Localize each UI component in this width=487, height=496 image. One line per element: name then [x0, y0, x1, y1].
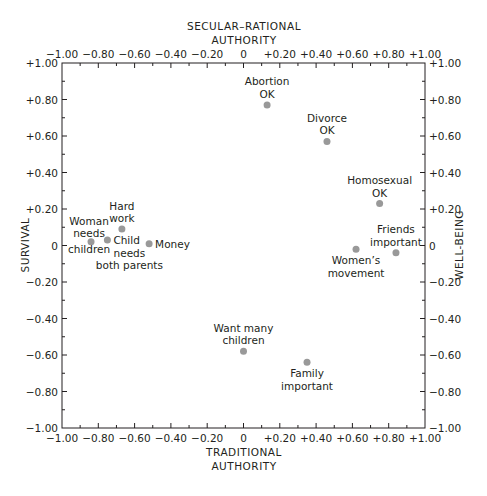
point-marker — [376, 200, 383, 207]
point-marker — [353, 246, 360, 253]
point-label: children — [68, 243, 110, 255]
data-points: AbortionOKDivorceOKHomosexualOKFriendsim… — [68, 75, 422, 391]
right-y-tick-label: +0.80 — [429, 94, 461, 106]
top-x-tick-label: 0 — [240, 48, 247, 60]
point-label: Family — [290, 367, 324, 379]
bottom-x-tick-label: 0 — [240, 432, 247, 444]
point-label: needs — [114, 247, 146, 259]
left-y-tick-label: −0.60 — [26, 349, 58, 361]
data-point: HomosexualOK — [347, 174, 412, 207]
point-label: Homosexual — [347, 174, 412, 186]
top-x-tick-label: −0.40 — [155, 48, 187, 60]
point-marker — [323, 138, 330, 145]
right-y-tick-label: −0.80 — [429, 386, 461, 398]
point-label: both parents — [96, 259, 163, 271]
point-marker — [304, 359, 311, 366]
data-point: DivorceOK — [307, 112, 347, 145]
top-x-tick-label: +0.40 — [300, 48, 332, 60]
data-point: Hardwork — [109, 200, 135, 233]
bottom-x-tick-label: +0.20 — [264, 432, 296, 444]
point-label: children — [222, 334, 264, 346]
bottom-x-tick-label: −0.80 — [82, 432, 114, 444]
data-point: Familyimportant — [281, 359, 333, 392]
right-y-tick-label: −1.00 — [429, 422, 461, 434]
data-point: Women’smovement — [328, 246, 385, 279]
right-y-tick-label: 0 — [429, 240, 436, 252]
data-point: AbortionOK — [245, 75, 290, 108]
left-y-tick-label: +1.00 — [26, 57, 58, 69]
top-x-tick-label: +0.20 — [264, 48, 296, 60]
bottom-x-tick-label: +0.60 — [336, 432, 368, 444]
top-x-tick-label: +0.80 — [373, 48, 405, 60]
point-label: needs — [73, 227, 105, 239]
bottom-x-tick-label: −0.20 — [191, 432, 223, 444]
right-y-tick-label: +0.40 — [429, 167, 461, 179]
left-axis-title: SURVIVAL — [19, 218, 31, 273]
right-y-tick-label: −0.40 — [429, 313, 461, 325]
point-marker — [104, 237, 111, 244]
right-y-tick-label: +1.00 — [429, 57, 461, 69]
point-label: Woman — [69, 215, 109, 227]
bottom-x-tick-label: −0.40 — [155, 432, 187, 444]
point-label: Child — [113, 234, 140, 246]
point-label: movement — [328, 267, 385, 279]
point-label: Divorce — [307, 112, 347, 124]
point-marker — [146, 240, 153, 247]
point-marker — [264, 101, 271, 108]
point-label: work — [109, 212, 135, 224]
point-label: Abortion — [245, 75, 290, 87]
point-label: Friends — [377, 223, 415, 235]
data-point: Want manychildren — [214, 322, 274, 355]
data-point: Money — [146, 238, 190, 250]
point-label: OK — [319, 124, 335, 136]
point-label: Money — [155, 238, 190, 250]
right-y-tick-label: −0.60 — [429, 349, 461, 361]
bottom-x-tick-label: +0.80 — [373, 432, 405, 444]
right-y-tick-label: +0.20 — [429, 203, 461, 215]
left-y-tick-label: +0.60 — [26, 130, 58, 142]
top-x-tick-label: −0.20 — [191, 48, 223, 60]
point-label: Want many — [214, 322, 274, 334]
bottom-x-tick-label: −0.60 — [119, 432, 151, 444]
point-marker — [240, 348, 247, 355]
bottom-axis-title-line1: TRADITIONAL — [205, 446, 282, 458]
point-label: OK — [372, 187, 388, 199]
data-point: Womanneedschildren — [68, 215, 110, 255]
left-y-tick-label: −0.20 — [26, 276, 58, 288]
right-axis-title: WELL-BEING — [453, 210, 465, 280]
scatter-chart: SECULAR–RATIONAL AUTHORITY TRADITIONAL A… — [0, 0, 487, 496]
data-point: Friendsimportant — [370, 223, 422, 256]
left-y-tick-label: +0.20 — [26, 203, 58, 215]
point-label: Women’s — [332, 254, 380, 266]
point-label: Hard — [109, 200, 134, 212]
right-y-tick-label: +0.60 — [429, 130, 461, 142]
left-y-tick-label: −1.00 — [26, 422, 58, 434]
top-axis-title-line2: AUTHORITY — [211, 34, 276, 46]
left-y-tick-label: −0.40 — [26, 313, 58, 325]
top-x-tick-label: −0.80 — [82, 48, 114, 60]
left-y-tick-label: −0.80 — [26, 386, 58, 398]
top-x-tick-label: −0.60 — [119, 48, 151, 60]
bottom-axis-title-line2: AUTHORITY — [211, 460, 276, 472]
point-marker — [118, 226, 125, 233]
left-y-tick-label: 0 — [51, 240, 58, 252]
bottom-x-tick-label: +0.40 — [300, 432, 332, 444]
left-y-tick-label: +0.40 — [26, 167, 58, 179]
left-y-tick-label: +0.80 — [26, 94, 58, 106]
point-label: important — [370, 236, 422, 248]
point-marker — [392, 249, 399, 256]
top-x-tick-label: +0.60 — [336, 48, 368, 60]
point-label: important — [281, 380, 333, 392]
point-label: OK — [260, 88, 276, 100]
top-axis-title-line1: SECULAR–RATIONAL — [187, 20, 301, 32]
right-y-tick-label: −0.20 — [429, 276, 461, 288]
